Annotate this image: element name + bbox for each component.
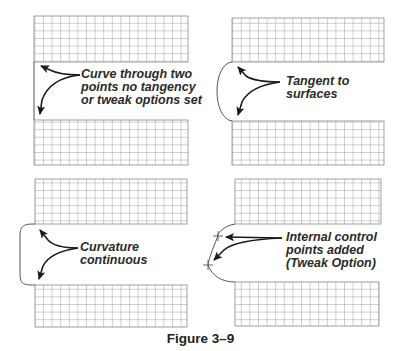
callout-arrows-icon [238, 67, 280, 115]
control-point-marker-icon [213, 231, 223, 241]
figure-caption: Figure 3–9 [0, 331, 401, 346]
surface-grid-lower [235, 282, 379, 326]
label-no-tangency: Curve through two points no tangency or … [81, 68, 202, 107]
callout-arrows-icon [214, 237, 282, 260]
label-curvature: Curvature continuous [80, 241, 147, 267]
callout-arrows-icon [40, 66, 80, 114]
callout-arrows-icon [39, 230, 78, 279]
surface-grid-upper [35, 179, 187, 224]
label-tangent: Tangent to surfaces [286, 75, 349, 101]
surface-grid-lower [35, 285, 187, 327]
diagram-graphics [0, 0, 401, 351]
surface-grid-lower [34, 120, 188, 165]
label-line: (Tweak Option) [286, 257, 377, 270]
surface-grid-upper [232, 18, 384, 62]
label-line: continuous [80, 254, 147, 267]
tangent-curve [217, 62, 232, 121]
label-tweak: Internal control points added (Tweak Opt… [286, 231, 377, 270]
label-line: or tweak options set [81, 94, 202, 107]
surface-grid-lower [232, 121, 384, 165]
curvature-curve [20, 224, 35, 285]
surface-grid-upper [34, 16, 188, 62]
figure-3-9: Curve through two points no tangency or … [0, 0, 401, 351]
control-point-marker-icon [203, 260, 213, 270]
surface-grid-upper [235, 179, 381, 224]
label-line: surfaces [286, 88, 349, 101]
